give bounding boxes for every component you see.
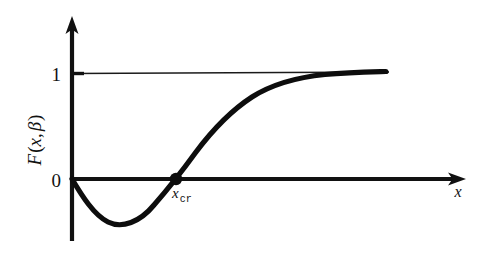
y-axis-label-text: F(x,β)	[24, 115, 46, 167]
ytick-label-0: 0	[52, 170, 62, 191]
function-plot: 1 0 F(x,β) x xcr	[0, 0, 487, 255]
y-label-close-paren: )	[24, 115, 46, 121]
y-label-comma: ,	[24, 133, 45, 138]
x-axis-label: x	[453, 183, 461, 200]
critical-point-marker	[170, 173, 182, 185]
y-axis-label: F(x,β)	[24, 115, 46, 167]
y-label-beta: β	[24, 121, 45, 132]
ytick-label-1: 1	[52, 64, 62, 85]
critical-point-label: xcr	[171, 185, 192, 205]
y-label-func: F	[24, 153, 45, 166]
critical-point-label-base: x	[171, 185, 179, 201]
function-curve	[72, 72, 386, 225]
critical-point-label-subscript: cr	[180, 194, 192, 205]
figure-container: 1 0 F(x,β) x xcr	[0, 0, 487, 255]
